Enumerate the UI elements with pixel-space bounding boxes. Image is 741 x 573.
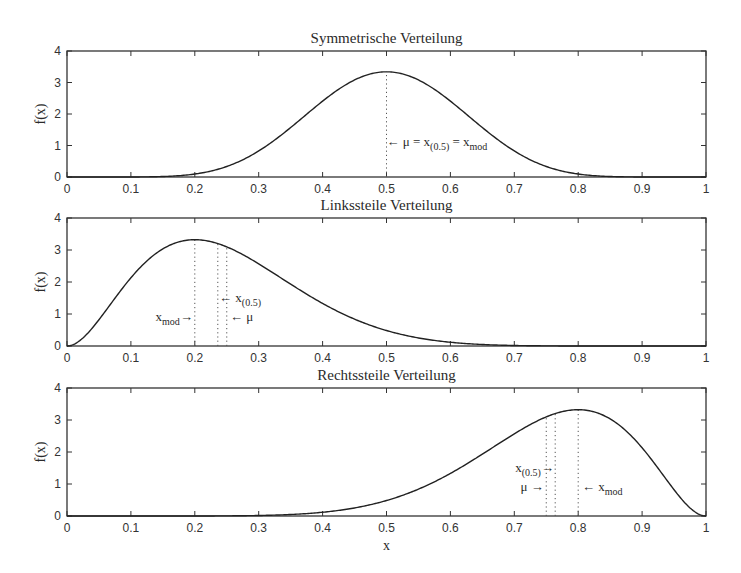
x-tick-label: 0.7 [506,521,523,535]
x-tick-label: 0.5 [378,521,395,535]
x-tick-label: 0.9 [634,182,651,196]
x-tick-label: 1 [703,182,710,196]
x-tick-label: 0.4 [314,182,331,196]
y-tick-label: 4 [54,211,61,225]
annotation: ← μ = x(0.5) = xmod [387,134,488,153]
x-tick-label: 0.2 [186,521,203,535]
x-tick-label: 0 [64,182,71,196]
x-tick-label: 0.3 [250,521,267,535]
panel-left-skewed: Linkssteile Verteilung00.10.20.30.40.50.… [33,197,710,365]
annotation: x(0.5)→ [515,460,554,479]
y-tick-label: 1 [54,477,61,491]
x-tick-label: 0.1 [123,182,140,196]
x-tick-label: 0.8 [570,351,587,365]
annotation: ← x(0.5) [219,290,261,309]
x-tick-label: 0.7 [506,351,523,365]
x-tick-label: 0.2 [186,351,203,365]
annotation: ← xmod [582,479,623,497]
panel-symmetric: Symmetrische Verteilung00.10.20.30.40.50… [33,30,710,196]
x-tick-label: 0.8 [570,182,587,196]
x-tick-label: 0.6 [442,351,459,365]
panel-right-skewed: Rechtssteile Verteilung00.10.20.30.40.50… [33,367,710,553]
y-tick-label: 2 [54,275,61,289]
chart-title: Linkssteile Verteilung [321,197,453,213]
x-tick-label: 0.3 [250,182,267,196]
x-tick-label: 1 [703,521,710,535]
chart-title: Symmetrische Verteilung [311,30,463,46]
x-axis-label: x [383,538,390,553]
x-tick-label: 0.3 [250,351,267,365]
x-tick-label: 0.8 [570,521,587,535]
x-tick-label: 0.4 [314,351,331,365]
x-tick-label: 0.5 [378,351,395,365]
y-tick-label: 3 [54,76,61,90]
x-tick-label: 0 [64,351,71,365]
y-tick-label: 2 [54,445,61,459]
x-tick-label: 0.1 [123,521,140,535]
x-tick-label: 0.4 [314,521,331,535]
y-tick-label: 0 [54,170,61,184]
y-axis-label: f(x) [33,271,49,292]
y-tick-label: 4 [54,44,61,58]
y-tick-label: 3 [54,243,61,257]
x-tick-label: 0.6 [442,182,459,196]
annotation: μ → [520,479,543,494]
x-tick-label: 1 [703,351,710,365]
x-tick-label: 0.6 [442,521,459,535]
annotation: ← μ [230,309,253,324]
x-tick-label: 0.9 [634,521,651,535]
y-tick-label: 3 [54,413,61,427]
x-tick-label: 0.1 [123,351,140,365]
x-tick-label: 0 [64,521,71,535]
annotation: xmod→ [156,309,193,327]
y-tick-label: 2 [54,107,61,121]
density-curve [67,410,706,516]
y-tick-label: 0 [54,509,61,523]
density-curve [67,240,706,346]
x-tick-label: 0.7 [506,182,523,196]
y-tick-label: 0 [54,339,61,353]
x-tick-label: 0.9 [634,351,651,365]
figure: Symmetrische Verteilung00.10.20.30.40.50… [0,0,741,573]
y-tick-label: 1 [54,139,61,153]
y-tick-label: 4 [54,381,61,395]
y-tick-label: 1 [54,307,61,321]
y-axis-label: f(x) [33,441,49,462]
y-axis-label: f(x) [33,103,49,124]
chart-title: Rechtssteile Verteilung [317,367,456,383]
x-tick-label: 0.2 [186,182,203,196]
x-tick-label: 0.5 [378,182,395,196]
